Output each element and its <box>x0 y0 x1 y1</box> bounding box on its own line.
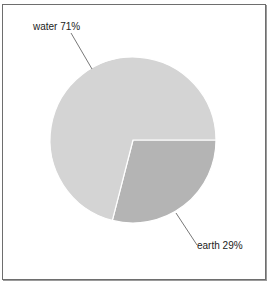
slice-label-water: water 71% <box>32 21 80 32</box>
leader-line-earth <box>176 213 197 245</box>
slice-label-earth: earth 29% <box>197 240 243 251</box>
pie-chart: water 71% earth 29% <box>0 0 272 288</box>
pie-slices <box>50 57 216 223</box>
leader-line-water <box>71 33 92 69</box>
